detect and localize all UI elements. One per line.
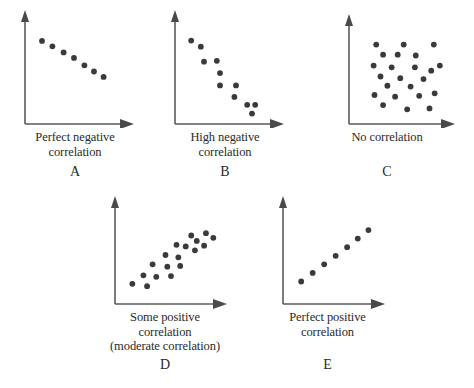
- data-point: [61, 50, 67, 56]
- data-point: [201, 59, 207, 65]
- data-point: [412, 64, 418, 70]
- correlation-scatter-figure: Perfect negative correlation A High nega…: [0, 0, 474, 388]
- data-point: [217, 70, 223, 76]
- data-point: [210, 235, 216, 241]
- data-point: [371, 63, 377, 69]
- data-point: [384, 83, 390, 89]
- panel-d-letter: D: [75, 357, 255, 373]
- scatter-plot-b: [160, 0, 290, 128]
- data-point: [408, 84, 414, 90]
- panel-e: Perfect positive correlation E: [240, 190, 415, 318]
- data-point: [233, 83, 239, 89]
- x-axis-arrowhead: [441, 119, 455, 128]
- panel-a: Perfect negative correlation A: [0, 0, 150, 128]
- panel-b: High negative correlation B: [150, 0, 300, 128]
- y-axis-arrowhead: [345, 14, 353, 26]
- axes-a: [21, 10, 134, 128]
- y-axis-arrowhead: [21, 10, 29, 22]
- x-axis-arrowhead: [371, 299, 385, 309]
- caption-line: correlation: [240, 325, 415, 340]
- axes-c: [345, 14, 455, 128]
- data-point: [129, 281, 135, 287]
- caption-line: correlation: [150, 145, 300, 160]
- data-point: [321, 261, 327, 267]
- data-point: [140, 272, 146, 278]
- caption-line: Some positive: [75, 310, 255, 325]
- data-point: [249, 111, 255, 117]
- data-point: [413, 53, 419, 59]
- data-point: [175, 254, 181, 260]
- data-point: [201, 243, 207, 249]
- data-point: [50, 43, 56, 49]
- data-point: [344, 244, 350, 250]
- data-point: [355, 236, 361, 242]
- data-point: [173, 242, 179, 248]
- data-point: [373, 42, 379, 48]
- data-point: [395, 52, 401, 58]
- data-point: [193, 238, 199, 244]
- data-point: [378, 74, 384, 80]
- data-point: [432, 90, 438, 96]
- panel-e-letter: E: [240, 357, 415, 373]
- x-axis-arrowhead: [213, 299, 227, 309]
- data-point: [101, 74, 107, 80]
- data-point: [217, 83, 223, 89]
- data-point: [392, 94, 398, 100]
- panel-b-caption: High negative correlation: [150, 130, 300, 159]
- panel-c-caption: No correlation: [300, 130, 474, 145]
- x-axis-arrowhead: [120, 119, 134, 128]
- data-points-c: [371, 42, 443, 112]
- data-point: [71, 55, 77, 61]
- caption-line: (moderate correlation): [75, 339, 255, 354]
- data-point: [162, 252, 168, 258]
- panel-d-caption: Some positive correlation (moderate corr…: [75, 310, 255, 354]
- data-point: [164, 264, 170, 270]
- data-point: [144, 283, 150, 289]
- caption-line: Perfect negative: [0, 130, 150, 145]
- data-point: [182, 244, 188, 250]
- data-point: [366, 227, 372, 233]
- data-point: [431, 42, 437, 48]
- panel-e-caption: Perfect positive correlation: [240, 310, 415, 339]
- scatter-svg-d: [93, 190, 238, 318]
- data-point: [298, 279, 304, 285]
- data-points-b: [188, 38, 258, 117]
- caption-line: High negative: [150, 130, 300, 145]
- panel-b-letter: B: [150, 164, 300, 180]
- data-point: [404, 106, 410, 112]
- data-point: [380, 102, 386, 108]
- data-point: [39, 38, 45, 44]
- data-point: [177, 263, 183, 269]
- data-point: [372, 92, 378, 98]
- data-point: [310, 270, 316, 276]
- scatter-plot-c: [317, 0, 457, 128]
- axes-d: [111, 196, 227, 309]
- data-point: [149, 261, 155, 267]
- axes-e: [279, 196, 385, 309]
- data-point: [232, 94, 238, 100]
- panel-a-letter: A: [0, 164, 150, 180]
- data-point: [188, 38, 194, 44]
- data-point: [389, 64, 395, 70]
- y-axis-arrowhead: [171, 10, 179, 22]
- data-point: [198, 44, 204, 50]
- data-point: [252, 102, 258, 108]
- scatter-plot-a: [10, 0, 140, 128]
- data-point: [91, 69, 97, 75]
- data-point: [153, 274, 159, 280]
- data-point: [168, 273, 174, 279]
- data-point: [203, 230, 209, 236]
- data-points-e: [298, 227, 371, 284]
- data-point: [427, 106, 433, 112]
- data-point: [380, 52, 386, 58]
- x-axis-arrowhead: [270, 119, 284, 128]
- data-point: [397, 75, 403, 81]
- data-point: [428, 68, 434, 74]
- panel-a-caption: Perfect negative correlation: [0, 130, 150, 159]
- y-axis-arrowhead: [279, 196, 287, 208]
- data-point: [214, 58, 220, 64]
- data-point: [421, 76, 427, 82]
- panel-d: Some positive correlation (moderate corr…: [75, 190, 255, 318]
- scatter-svg-c: [317, 0, 457, 128]
- data-point: [192, 247, 198, 253]
